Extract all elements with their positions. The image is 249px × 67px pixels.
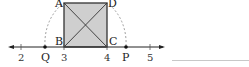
label-b: B (55, 35, 63, 48)
label-p: P (122, 51, 130, 64)
label-5: 5 (147, 52, 153, 63)
label-a: A (54, 0, 64, 10)
arrow-left-icon (8, 45, 14, 49)
label-2: 2 (18, 52, 24, 63)
geometry-figure: A D B C 2 Q 3 4 P 5 (0, 0, 249, 67)
point-p (124, 45, 128, 49)
label-c: C (109, 35, 117, 48)
arrow-right-icon (159, 45, 165, 49)
label-3: 3 (61, 52, 67, 63)
label-d: D (108, 0, 117, 10)
label-4: 4 (104, 52, 110, 63)
answer-blank-line (172, 60, 249, 61)
point-q (43, 45, 47, 49)
label-q: Q (41, 51, 50, 64)
